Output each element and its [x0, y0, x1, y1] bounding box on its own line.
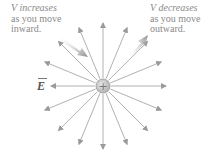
field-line	[106, 93, 127, 144]
field-line	[79, 93, 100, 144]
caption-v-decreases: V decreases as you move outward.	[150, 3, 201, 35]
field-line	[109, 41, 148, 80]
caption-line1: decreases	[156, 2, 198, 13]
field-line	[109, 92, 148, 131]
charge-sign: +	[98, 80, 107, 93]
field-line	[58, 92, 97, 131]
field-line	[106, 28, 127, 79]
caption-line3: outward.	[150, 24, 201, 35]
outward-arrow-icon	[128, 35, 148, 59]
field-line	[58, 41, 97, 80]
field-line	[110, 62, 161, 83]
field-line	[110, 89, 161, 110]
caption-line3: inward.	[11, 24, 62, 35]
electric-field-label: E	[37, 79, 45, 94]
field-line	[45, 89, 96, 110]
caption-line1: increases	[17, 2, 57, 13]
field-line	[45, 62, 96, 83]
caption-v-increases: V increases as you move inward.	[11, 3, 62, 35]
